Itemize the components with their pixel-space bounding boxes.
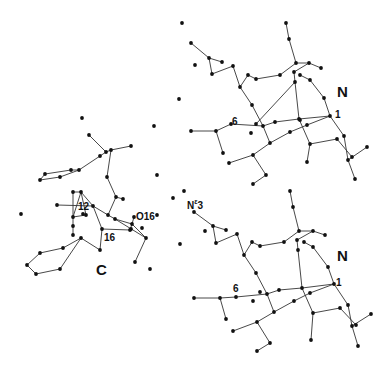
atom <box>251 153 255 157</box>
molecule-n-bottom <box>194 191 371 351</box>
atom <box>207 56 211 60</box>
atom <box>250 240 254 244</box>
labels-layer: N16N16Nε3C1216O16 <box>78 83 348 294</box>
bond <box>324 98 330 116</box>
atom <box>273 120 277 124</box>
atom <box>114 195 118 199</box>
atom <box>128 228 132 232</box>
bond <box>115 219 132 224</box>
bond <box>240 75 248 87</box>
bond <box>267 294 274 312</box>
atom <box>98 154 102 158</box>
bond <box>216 124 231 131</box>
atom <box>288 130 292 134</box>
atom <box>291 205 295 209</box>
atom <box>308 142 312 146</box>
bond <box>237 234 244 255</box>
atom <box>58 175 62 179</box>
bond <box>191 43 209 58</box>
bond <box>270 132 290 143</box>
bond <box>253 175 266 184</box>
atom <box>294 61 298 65</box>
label-6-bottom: 6 <box>233 283 239 294</box>
bond <box>286 23 289 39</box>
bond <box>233 322 257 331</box>
bond <box>313 308 340 313</box>
bond <box>213 226 216 243</box>
atom <box>353 177 357 181</box>
bond <box>233 66 240 87</box>
label-16: 16 <box>104 232 116 243</box>
atom <box>224 317 228 321</box>
atom <box>346 303 350 307</box>
atom <box>254 271 258 275</box>
atom <box>91 204 95 208</box>
bond <box>81 238 100 250</box>
bond <box>289 39 296 63</box>
bond <box>102 229 130 230</box>
bond <box>93 206 108 215</box>
atom <box>311 311 315 315</box>
atom <box>264 173 268 177</box>
bond <box>89 135 106 152</box>
atom <box>311 245 315 249</box>
atom <box>105 175 109 179</box>
atom <box>346 158 350 162</box>
atom <box>350 155 354 159</box>
atom <box>211 224 215 228</box>
atom <box>356 344 360 348</box>
atom <box>234 295 238 299</box>
bonds-layer <box>27 23 371 351</box>
water-atom <box>148 267 152 271</box>
atom <box>109 148 113 152</box>
bond <box>216 234 237 243</box>
bond <box>293 207 299 231</box>
bond <box>348 305 352 326</box>
atom <box>214 241 218 245</box>
atom <box>121 197 125 201</box>
atom <box>292 70 296 74</box>
bond <box>257 343 270 351</box>
bond <box>40 248 63 253</box>
bond <box>298 250 302 288</box>
bond <box>107 150 111 177</box>
atom <box>287 37 291 41</box>
bond <box>209 58 212 74</box>
atom <box>268 141 272 145</box>
atom <box>293 80 297 84</box>
bond <box>93 206 102 229</box>
bond <box>236 294 267 297</box>
atom <box>231 329 235 333</box>
atom <box>84 213 88 217</box>
bond <box>328 267 334 284</box>
atom <box>350 324 354 328</box>
bond <box>108 197 116 215</box>
atom <box>308 291 312 295</box>
atom <box>323 233 327 237</box>
atom <box>238 85 242 89</box>
atom <box>140 226 144 230</box>
atom <box>113 217 117 221</box>
bond <box>256 82 295 124</box>
atom <box>80 116 84 120</box>
atom <box>298 118 302 122</box>
atom <box>227 161 231 165</box>
bond <box>348 160 355 179</box>
atom <box>61 246 65 250</box>
bond <box>290 191 293 207</box>
atom <box>311 229 315 233</box>
bond <box>79 156 100 170</box>
molecular-structure-diagram: N16N16Nε3C1216O16 <box>0 0 390 368</box>
molecule-n-top <box>191 23 367 184</box>
atom <box>300 286 304 290</box>
bond <box>253 155 266 175</box>
bond <box>27 253 40 265</box>
bond <box>310 139 337 144</box>
water-atom <box>171 196 175 200</box>
water-atom <box>193 63 197 67</box>
atom <box>254 77 258 81</box>
atom <box>38 178 42 182</box>
bond <box>194 212 213 226</box>
label-6-top: 6 <box>232 116 238 127</box>
atom <box>278 73 282 77</box>
